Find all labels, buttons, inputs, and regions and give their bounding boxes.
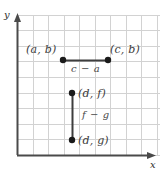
coordinate-grid-figure: (a, b) (c, b) c − a (d, f) f − g (d, g) …	[0, 0, 163, 178]
segment-length-label-f-minus-g: f − g	[82, 110, 110, 120]
point-d-f-dot	[69, 90, 75, 96]
point-a-b-dot	[60, 57, 66, 63]
point-d-g-dot	[69, 137, 75, 143]
point-label-c-b: (c, b)	[110, 44, 140, 55]
point-label-d-f: (d, f)	[78, 88, 106, 99]
x-axis-label: x	[150, 160, 156, 170]
point-label-d-g: (d, g)	[78, 135, 109, 146]
segment-length-label-c-minus-a: c − a	[71, 64, 100, 74]
x-axis-arrowhead	[147, 152, 156, 159]
y-axis-label: y	[4, 10, 10, 20]
point-c-b-dot	[105, 57, 111, 63]
point-label-a-b: (a, b)	[26, 44, 56, 55]
y-axis-arrowhead	[14, 13, 21, 22]
